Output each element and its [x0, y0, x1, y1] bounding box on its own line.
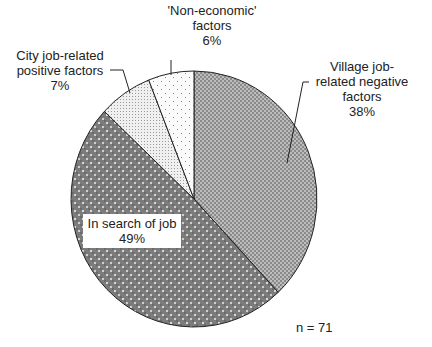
slice-label-city: City job-related positive factors 7% — [10, 48, 110, 93]
slice-label-noneco: 'Non-economic' factors 6% — [152, 3, 272, 48]
pie-slices — [71, 71, 317, 327]
label-text: factors — [312, 89, 412, 104]
sample-size-annotation: n = 71 — [296, 320, 376, 335]
label-text: positive factors — [10, 63, 110, 78]
label-text: In search of job — [83, 216, 181, 231]
label-text: factors — [152, 18, 272, 33]
leader-line-city — [110, 70, 130, 93]
label-text: 'Non-economic' — [152, 3, 272, 18]
label-percent: 6% — [152, 33, 272, 48]
label-percent: 7% — [10, 78, 110, 93]
label-text: City job-related — [10, 48, 110, 63]
label-percent: 49% — [83, 231, 181, 246]
label-text: related negative — [312, 74, 412, 89]
label-percent: 38% — [312, 104, 412, 119]
slice-label-search: In search of job 49% — [83, 214, 181, 248]
slice-label-village: Village job- related negative factors 38… — [312, 59, 412, 119]
label-text: Village job- — [312, 59, 412, 74]
